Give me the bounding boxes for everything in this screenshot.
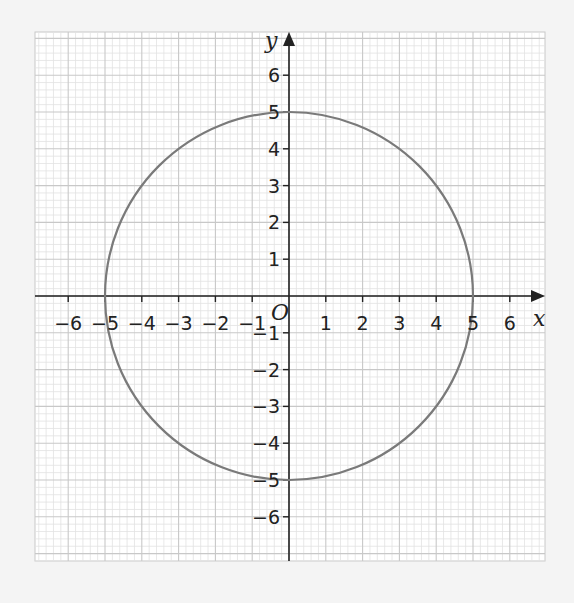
x-tick-label: 6	[504, 312, 516, 334]
x-tick-label: 4	[430, 312, 442, 334]
x-tick-label: −3	[165, 312, 193, 334]
y-tick-label: −1	[252, 322, 280, 344]
x-axis-label: x	[533, 306, 546, 331]
y-tick-label: 2	[268, 211, 280, 233]
x-tick-label: 3	[393, 312, 405, 334]
y-tick-label: −2	[252, 359, 280, 381]
y-tick-label: 6	[268, 64, 280, 86]
origin-label: O	[271, 300, 289, 325]
y-tick-label: −6	[252, 506, 280, 528]
y-tick-label: −5	[252, 469, 280, 491]
y-axis-label: y	[264, 28, 278, 53]
y-tick-label: 4	[268, 138, 280, 160]
coordinate-plane: −6−5−4−3−2−1123456−6−5−4−3−2−1123456 x y…	[0, 0, 574, 603]
x-tick-label: 2	[357, 312, 369, 334]
x-tick-label: 5	[467, 312, 479, 334]
y-tick-label: 1	[268, 248, 280, 270]
y-tick-label: 5	[268, 101, 280, 123]
y-tick-label: 3	[268, 175, 280, 197]
x-tick-label: −6	[54, 312, 82, 334]
x-tick-label: −5	[91, 312, 119, 334]
x-tick-label: −2	[201, 312, 229, 334]
y-tick-label: −3	[252, 395, 280, 417]
y-tick-label: −4	[252, 432, 280, 454]
x-tick-label: −4	[128, 312, 156, 334]
x-tick-label: 1	[320, 312, 332, 334]
